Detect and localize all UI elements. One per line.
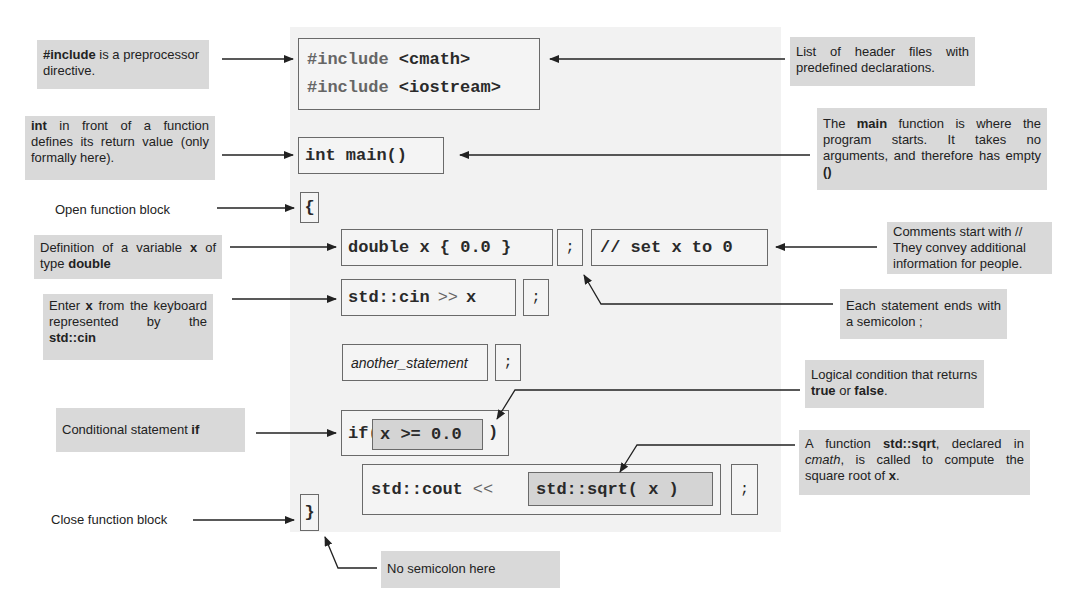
arrow-layer bbox=[0, 0, 1081, 610]
arrow-no-semicolon bbox=[325, 537, 377, 568]
arrow-sqrt bbox=[620, 445, 795, 472]
arrow-logical bbox=[497, 390, 800, 419]
arrow-semicolon bbox=[584, 275, 833, 304]
